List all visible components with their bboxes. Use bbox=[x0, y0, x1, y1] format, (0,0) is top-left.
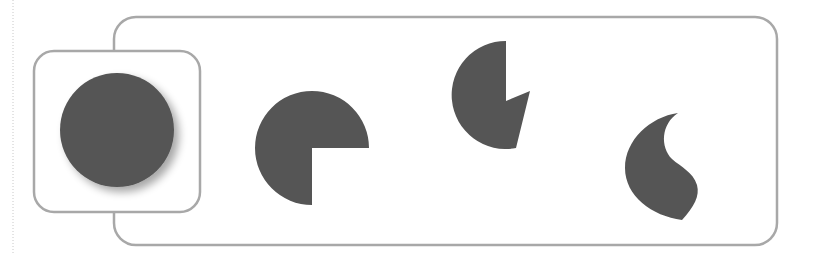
shape-morph-diagram bbox=[0, 0, 813, 254]
full-circle-shape bbox=[60, 73, 174, 187]
